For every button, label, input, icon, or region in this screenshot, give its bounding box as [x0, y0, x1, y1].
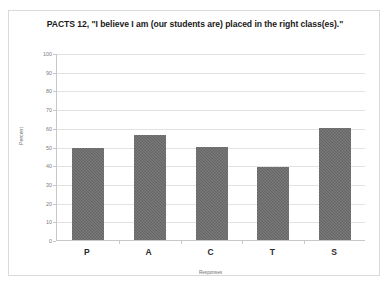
x-axis-tick-label: T	[242, 247, 302, 257]
gridline	[57, 110, 365, 111]
y-axis-tick-label: 100	[30, 51, 52, 57]
gridline	[57, 91, 365, 92]
y-axis-tick-mark	[53, 222, 56, 223]
y-axis-tick-label: 10	[30, 219, 52, 225]
y-axis-tick-label: 50	[30, 145, 52, 151]
y-axis-tick-label: 90	[30, 70, 52, 76]
x-axis-title: Responses	[56, 270, 365, 275]
y-axis-tick-label: 0	[30, 238, 52, 244]
x-axis-tick-mark	[119, 241, 120, 244]
y-axis-tick-mark	[53, 129, 56, 130]
x-axis-tick-label: A	[119, 247, 179, 257]
y-axis-tick-label: 80	[30, 88, 52, 94]
y-axis-tick-mark	[53, 54, 56, 55]
x-axis-tick-mark	[304, 241, 305, 244]
x-axis-tick-labels: PACTS	[56, 247, 365, 261]
y-axis-tick-label: 20	[30, 201, 52, 207]
gridline	[57, 73, 365, 74]
y-axis-tick-label: 40	[30, 163, 52, 169]
gridline	[57, 54, 365, 55]
x-axis-tick-label: P	[57, 247, 117, 257]
x-axis-tick-label: S	[304, 247, 364, 257]
chart-card: PACTS 12, "I believe I am (our students …	[8, 10, 380, 276]
y-axis-tick-mark	[53, 241, 56, 242]
bar	[257, 167, 289, 240]
y-axis-tick-label: 70	[30, 107, 52, 113]
bar	[196, 147, 228, 241]
x-axis-tick-mark	[242, 241, 243, 244]
y-axis-tick-mark	[53, 73, 56, 74]
x-axis-tick-mark	[181, 241, 182, 244]
bar	[319, 128, 351, 240]
y-axis-tick-mark	[53, 166, 56, 167]
chart-title: PACTS 12, "I believe I am (our students …	[39, 18, 351, 31]
y-axis-tick-mark	[53, 148, 56, 149]
y-axis-tick-mark	[53, 91, 56, 92]
y-axis-title: Percent	[18, 116, 24, 156]
y-axis-tick-mark	[53, 110, 56, 111]
bar	[134, 135, 166, 240]
y-axis-tick-mark	[53, 185, 56, 186]
y-axis-tick-label: 60	[30, 126, 52, 132]
x-axis-tick-label: C	[181, 247, 241, 257]
plot-area	[56, 54, 365, 241]
y-axis-tick-labels: 0102030405060708090100	[28, 54, 52, 241]
y-axis-tick-mark	[53, 204, 56, 205]
bar	[72, 148, 104, 240]
y-axis-tick-label: 30	[30, 182, 52, 188]
